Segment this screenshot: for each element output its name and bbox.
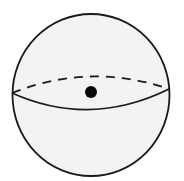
center-point — [85, 86, 97, 98]
sphere-diagram — [0, 0, 184, 181]
